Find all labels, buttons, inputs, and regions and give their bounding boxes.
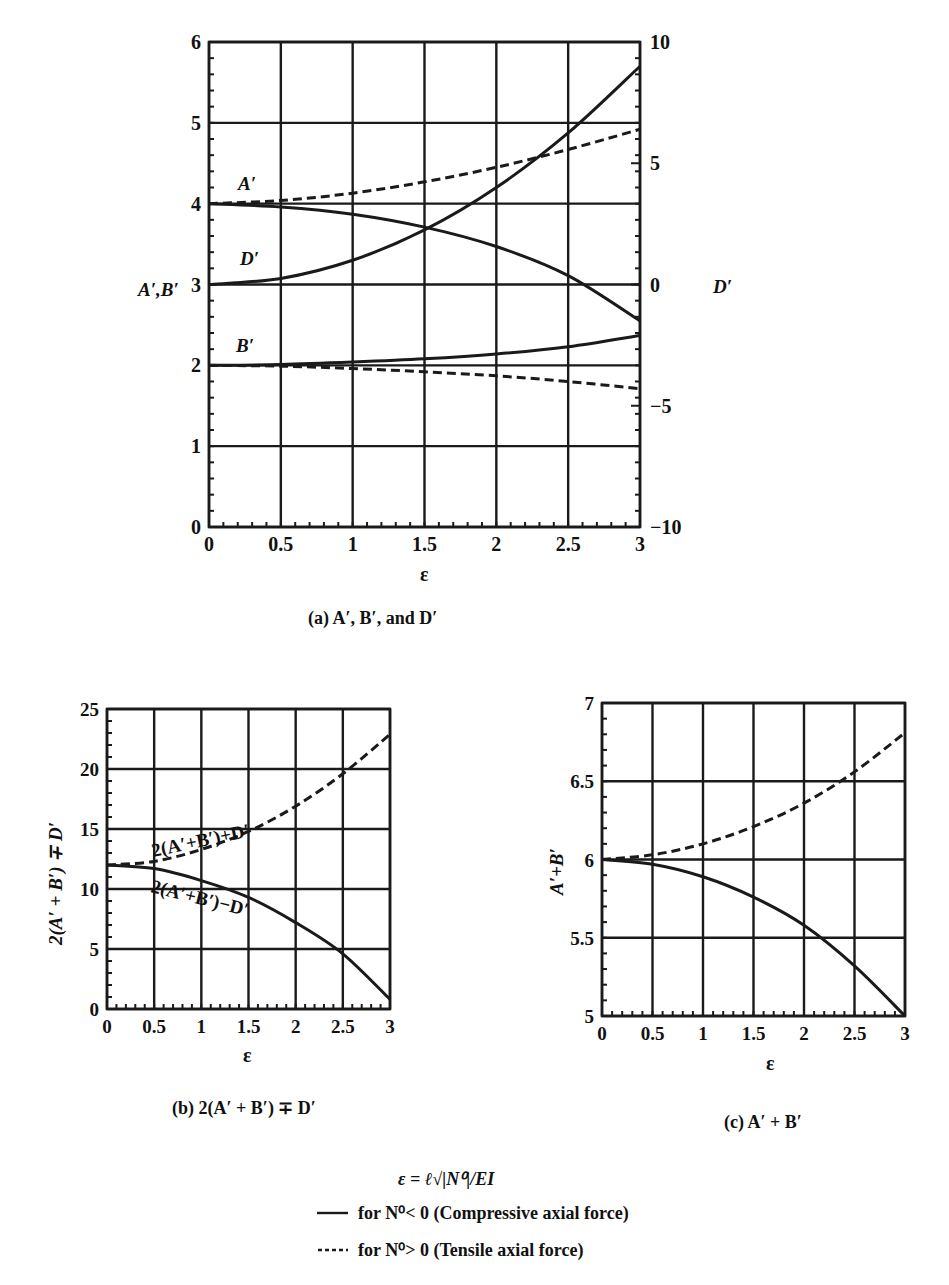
x-tick-label: 1.5 [412, 533, 437, 555]
y-tick-label: 7 [585, 693, 595, 714]
y-tick-label: 10 [80, 879, 99, 900]
y-tick-label: 5 [90, 939, 100, 960]
x-tick-label: 0 [102, 1016, 112, 1037]
chart-a-label-A: A′ [237, 173, 256, 194]
y-tick-label: 15 [80, 819, 99, 840]
y-right-tick-label: −10 [650, 516, 681, 538]
x-tick-label: 3 [635, 533, 645, 555]
y-right-tick-label: 10 [650, 31, 670, 53]
y-right-tick-label: −5 [650, 395, 671, 417]
chart-a-ylabel-right: D′ [712, 276, 732, 297]
chart-c-caption: (c) A′ + B′ [724, 1112, 802, 1133]
y-tick-label: 6 [585, 850, 595, 871]
x-tick-label: 3 [385, 1016, 395, 1037]
x-tick-label: 0.5 [641, 1023, 665, 1044]
chart-b-label-minus: 2(A′+B′)−D′ [149, 876, 251, 922]
y-tick-label: 6 [191, 31, 201, 53]
y-tick-label: 3 [191, 274, 201, 296]
x-tick-label: 2 [491, 533, 501, 555]
y-right-tick-label: 5 [650, 152, 660, 174]
chart-b-ylabel: 2(A′ + B′) ∓ D′ [45, 822, 67, 946]
y-right-tick-label: 0 [650, 274, 660, 296]
y-tick-label: 1 [191, 435, 201, 457]
chart-c: 00.511.522.5355.566.57 [570, 693, 910, 1044]
chart-a-ylabel: A′,B′ [137, 279, 179, 300]
y-tick-label: 0 [90, 999, 100, 1020]
y-tick-label: 5 [585, 1006, 595, 1027]
x-tick-label: 2.5 [556, 533, 581, 555]
y-tick-label: 5 [191, 112, 201, 134]
x-tick-label: 2 [799, 1023, 809, 1044]
chart-c-xlabel: ε [766, 1052, 775, 1074]
chart-b-caption: (b) 2(A′ + B′) ∓ D′ [172, 1097, 316, 1119]
x-tick-label: 0 [597, 1023, 607, 1044]
chart-a-caption: (a) A′, B′, and D′ [308, 608, 437, 629]
x-tick-label: 1 [348, 533, 358, 555]
y-tick-label: 0 [191, 516, 201, 538]
x-tick-label: 1.5 [742, 1023, 766, 1044]
chart-a-label-B: B′ [235, 335, 254, 356]
chart-a-label-D: D′ [239, 248, 259, 269]
x-tick-label: 1.5 [237, 1016, 261, 1037]
chart-a: 00.511.522.530123456−10−50510 [191, 31, 681, 555]
x-tick-label: 2.5 [331, 1016, 355, 1037]
legend-solid-label: for N⁰< 0 (Compressive axial force) [358, 1202, 629, 1224]
chart-c-ylabel: A′+B′ [546, 848, 567, 896]
x-tick-label: 2.5 [843, 1023, 867, 1044]
y-tick-label: 2 [191, 354, 201, 376]
x-tick-label: 0.5 [142, 1016, 166, 1037]
x-tick-label: 0 [204, 533, 214, 555]
x-tick-label: 0.5 [268, 533, 293, 555]
x-tick-label: 1 [698, 1023, 708, 1044]
y-tick-label: 5.5 [570, 928, 594, 949]
chart-b: 00.511.522.530510152025 [80, 699, 395, 1037]
y-tick-label: 25 [80, 699, 99, 720]
chart-a-xlabel: ε [420, 563, 429, 585]
legend-dashed-label: for N⁰> 0 (Tensile axial force) [358, 1239, 583, 1261]
x-tick-label: 1 [197, 1016, 207, 1037]
figure-canvas: 00.511.522.530123456−10−50510 00.511.522… [0, 0, 949, 1285]
chart-b-xlabel: ε [243, 1044, 252, 1066]
y-tick-label: 4 [191, 193, 201, 215]
x-tick-label: 2 [291, 1016, 301, 1037]
y-tick-label: 20 [80, 759, 99, 780]
legend-definition: ε = ℓ√|N⁰|/EI [398, 1168, 494, 1190]
x-tick-label: 3 [900, 1023, 910, 1044]
y-tick-label: 6.5 [570, 771, 594, 792]
